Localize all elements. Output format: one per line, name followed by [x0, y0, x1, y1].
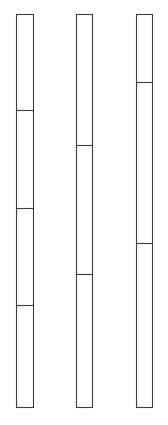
- bars-group: [16, 14, 153, 408]
- diagram-canvas: [0, 0, 168, 425]
- bar-1-segment-3[interactable]: [16, 208, 34, 305]
- bar-1[interactable]: [16, 14, 34, 408]
- bar-2-segment-1[interactable]: [76, 14, 93, 145]
- bar-3[interactable]: [136, 14, 153, 408]
- bar-3-segment-1[interactable]: [136, 14, 153, 82]
- bar-3-segment-2[interactable]: [136, 82, 153, 243]
- bar-2[interactable]: [76, 14, 93, 408]
- bar-3-segment-3[interactable]: [136, 243, 153, 408]
- bar-1-segment-1[interactable]: [16, 14, 34, 110]
- bar-2-segment-2[interactable]: [76, 145, 93, 274]
- stacked-bars-chart: [0, 0, 168, 425]
- bar-1-segment-4[interactable]: [16, 305, 34, 408]
- bar-1-segment-2[interactable]: [16, 110, 34, 208]
- bar-2-segment-3[interactable]: [76, 274, 93, 408]
